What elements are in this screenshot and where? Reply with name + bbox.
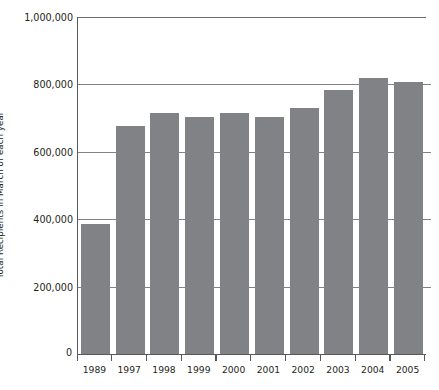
- bar-slot-1997: [113, 17, 148, 354]
- bar-slot-2003: [322, 17, 357, 354]
- x-axis-label-2000: 2000: [216, 364, 251, 380]
- bar-slot-2004: [356, 17, 391, 354]
- bar-2001: [255, 117, 284, 354]
- y-tick-label: 1,000,000: [24, 12, 73, 23]
- bar-1999: [185, 117, 214, 354]
- x-axis-label-2005: 2005: [390, 364, 425, 380]
- x-axis-label-2004: 2004: [355, 364, 390, 380]
- bar-2004: [359, 78, 388, 354]
- gridline-right-tick: [426, 219, 431, 220]
- y-axis-title: Total Recipients in March of each year: [0, 0, 26, 390]
- gridline-right-tick: [426, 84, 431, 85]
- bar-1998: [150, 113, 179, 354]
- x-axis-label-1989: 1989: [77, 364, 112, 380]
- bar-2003: [324, 90, 353, 354]
- y-tick-label: 400,000: [33, 214, 73, 225]
- bar-1989: [81, 224, 110, 354]
- x-tick-2004: [355, 354, 390, 362]
- bar-1997: [116, 126, 145, 354]
- bar-slot-2000: [217, 17, 252, 354]
- bar-2000: [220, 113, 249, 354]
- bar-slot-1999: [182, 17, 217, 354]
- x-axis-label-1997: 1997: [112, 364, 147, 380]
- bar-chart: Total Recipients in March of each year 2…: [0, 0, 439, 390]
- x-axis-label-1999: 1999: [181, 364, 216, 380]
- bar-slot-2001: [252, 17, 287, 354]
- bar-slot-1989: [78, 17, 113, 354]
- x-tick-2001: [251, 354, 286, 362]
- y-tick-label: 200,000: [33, 281, 73, 292]
- gridline-right-tick: [426, 287, 431, 288]
- x-tick-mark: [424, 354, 425, 361]
- bar-slot-2002: [287, 17, 322, 354]
- y-tick-label-zero: 0: [56, 347, 72, 358]
- y-tick-label: 600,000: [33, 146, 73, 157]
- x-tick-1999: [181, 354, 216, 362]
- x-tick-1997: [112, 354, 147, 362]
- x-tick-2000: [216, 354, 251, 362]
- x-tick-2002: [286, 354, 321, 362]
- x-axis-label-2002: 2002: [286, 364, 321, 380]
- bar-2005: [394, 82, 423, 354]
- gridline-right-tick: [426, 152, 431, 153]
- plot-area: 200,000400,000600,000800,0001,000,000: [77, 17, 426, 355]
- y-tick-label: 800,000: [33, 79, 73, 90]
- x-tick-1989: [77, 354, 112, 362]
- x-tick-1998: [147, 354, 182, 362]
- x-axis-ticks: [77, 354, 425, 362]
- bar-slot-2005: [391, 17, 426, 354]
- bar-slot-1998: [148, 17, 183, 354]
- bar-series: [78, 17, 426, 354]
- x-tick-mark: [77, 354, 78, 361]
- x-axis-label-1998: 1998: [147, 364, 182, 380]
- bar-2002: [290, 108, 319, 354]
- x-tick-2005: [390, 354, 425, 362]
- x-tick-2003: [321, 354, 356, 362]
- x-axis-labels: 1989199719981999200020012002200320042005: [77, 364, 425, 380]
- x-axis-label-2001: 2001: [251, 364, 286, 380]
- x-axis-label-2003: 2003: [321, 364, 356, 380]
